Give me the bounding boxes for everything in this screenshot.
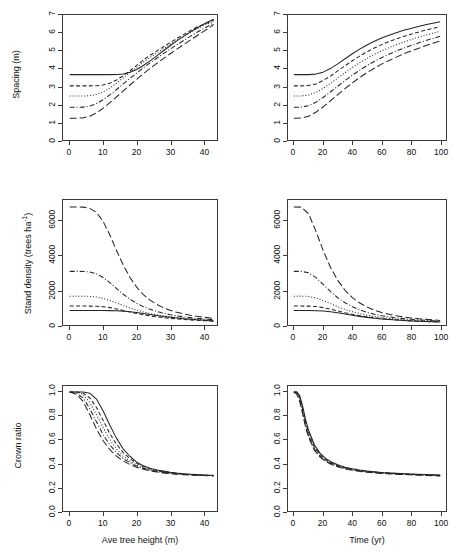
x-tick-mark	[411, 141, 412, 145]
y-tick-label: 7	[273, 0, 282, 26]
y-tick-mark	[283, 50, 287, 51]
x-tick-mark	[204, 512, 205, 516]
plot-curves-crown-height	[63, 386, 217, 511]
y-tick-mark	[283, 87, 287, 88]
x-axis-title-height: Ave tree height (m)	[62, 536, 218, 545]
series-line-4	[70, 207, 214, 318]
y-tick-label: 6000	[273, 206, 282, 232]
density-label-paren: )	[23, 213, 33, 216]
x-tick-label: 30	[156, 333, 186, 342]
x-tick-mark	[103, 326, 104, 330]
plot-area-spacing-height	[62, 14, 218, 141]
y-tick-mark	[58, 32, 62, 33]
x-tick-label: 80	[396, 333, 426, 342]
series-line-0	[70, 19, 214, 74]
x-tick-label: 40	[189, 333, 219, 342]
y-tick-mark	[58, 326, 62, 327]
plot-curves-density-height	[63, 200, 217, 325]
y-tick-label: 0.2	[273, 474, 282, 500]
x-tick-label: 0	[54, 333, 84, 342]
series-line-0	[294, 392, 440, 475]
x-tick-mark	[441, 141, 442, 145]
x-tick-mark	[69, 326, 70, 330]
x-tick-label: 100	[426, 519, 456, 528]
x-tick-mark	[382, 326, 383, 330]
series-line-4	[294, 207, 440, 320]
y-tick-label: 6000	[48, 206, 57, 232]
x-tick-label: 40	[337, 148, 367, 157]
series-line-4	[70, 24, 214, 118]
y-axis-title-crown: Crown ratio	[14, 414, 23, 478]
x-tick-label: 20	[122, 148, 152, 157]
x-tick-mark	[293, 512, 294, 516]
y-tick-label: 7	[48, 0, 57, 26]
x-tick-label: 30	[156, 148, 186, 157]
figure-root: Spacing (m) 01234567 010203040 01234567 …	[0, 0, 459, 558]
x-tick-label: 0	[278, 148, 308, 157]
plot-curves-density-time	[288, 200, 446, 325]
series-line-1	[294, 306, 440, 322]
x-tick-label: 80	[396, 148, 426, 157]
x-tick-mark	[411, 512, 412, 516]
x-tick-label: 40	[337, 333, 367, 342]
x-tick-label: 100	[426, 333, 456, 342]
x-tick-mark	[382, 141, 383, 145]
panel-density-vs-height: Stand density (trees ha-1) 0200040006000…	[0, 185, 230, 370]
y-tick-label: 0.4	[48, 450, 57, 476]
series-line-2	[70, 21, 214, 96]
y-tick-mark	[58, 255, 62, 256]
y-tick-mark	[58, 87, 62, 88]
x-tick-mark	[411, 326, 412, 330]
x-tick-mark	[137, 141, 138, 145]
x-tick-label: 60	[367, 519, 397, 528]
x-tick-mark	[293, 141, 294, 145]
y-tick-mark	[283, 105, 287, 106]
x-tick-label: 40	[189, 148, 219, 157]
x-tick-label: 0	[278, 519, 308, 528]
x-tick-label: 40	[337, 519, 367, 528]
y-tick-mark	[58, 512, 62, 513]
y-tick-mark	[58, 391, 62, 392]
panel-spacing-vs-height: Spacing (m) 01234567 010203040	[0, 0, 230, 180]
y-tick-mark	[283, 123, 287, 124]
y-axis-title-spacing: Spacing (m)	[12, 43, 21, 107]
x-tick-mark	[441, 512, 442, 516]
y-tick-mark	[58, 105, 62, 106]
x-tick-label: 0	[278, 333, 308, 342]
y-tick-mark	[283, 439, 287, 440]
y-tick-mark	[283, 255, 287, 256]
y-tick-label: 4000	[273, 242, 282, 268]
y-tick-mark	[283, 391, 287, 392]
x-tick-mark	[323, 512, 324, 516]
y-tick-mark	[58, 220, 62, 221]
y-tick-mark	[58, 14, 62, 15]
y-tick-mark	[283, 68, 287, 69]
y-tick-label: 0.2	[48, 474, 57, 500]
series-line-1	[294, 392, 440, 475]
x-tick-mark	[352, 326, 353, 330]
y-tick-mark	[283, 32, 287, 33]
series-line-3	[294, 392, 440, 476]
plot-area-spacing-time	[287, 14, 447, 141]
y-tick-mark	[283, 326, 287, 327]
y-axis-title-density: Stand density (trees ha-1)	[20, 209, 33, 319]
y-tick-label: 0.8	[273, 401, 282, 427]
x-tick-mark	[293, 326, 294, 330]
x-tick-mark	[103, 512, 104, 516]
y-tick-mark	[283, 415, 287, 416]
series-line-2	[70, 296, 214, 320]
series-line-4	[294, 392, 440, 476]
density-label-exponent: -1	[21, 216, 28, 222]
x-tick-label: 80	[396, 519, 426, 528]
y-tick-label: 1.0	[48, 377, 57, 403]
x-tick-mark	[204, 326, 205, 330]
panel-density-vs-time: 0200040006000 020406080100	[229, 185, 459, 370]
x-tick-label: 60	[367, 333, 397, 342]
x-tick-mark	[69, 141, 70, 145]
y-tick-mark	[283, 464, 287, 465]
x-tick-label: 20	[308, 519, 338, 528]
x-axis-title-time: Time (yr)	[287, 536, 447, 545]
plot-curves-spacing-height	[63, 15, 217, 140]
y-tick-mark	[283, 512, 287, 513]
y-tick-mark	[283, 488, 287, 489]
